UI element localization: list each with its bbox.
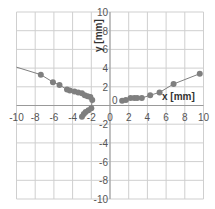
data-point xyxy=(50,79,56,85)
x-tick-label: 8 xyxy=(182,112,188,123)
y-tick-label: -10 xyxy=(94,194,109,205)
x-tick-label: 4 xyxy=(145,112,151,123)
data-point xyxy=(147,92,153,98)
y-tick-label: -6 xyxy=(99,157,108,168)
x-tick-label: -10 xyxy=(9,112,24,123)
x-tick-label: -8 xyxy=(31,112,40,123)
axes xyxy=(17,12,204,199)
x-tick-label: -4 xyxy=(68,112,77,123)
y-tick-label: 4 xyxy=(102,63,108,74)
scatter-chart: -10-8-6-4-20246810-10-8-6-4-22468100 x [… xyxy=(0,0,215,209)
x-axis-label: x [mm] xyxy=(162,91,195,102)
data-point xyxy=(171,81,177,87)
data-point xyxy=(57,82,63,88)
y-axis-label: y [mm] xyxy=(93,19,104,52)
x-tick-label: 6 xyxy=(163,112,169,123)
y-tick-label: 2 xyxy=(102,82,108,93)
y-tick-label: -8 xyxy=(99,175,108,186)
origin-y-label: 0 xyxy=(112,95,118,106)
x-tick-label: -6 xyxy=(49,112,58,123)
x-tick-label: 10 xyxy=(198,112,210,123)
x-tick-label: 0 xyxy=(107,112,113,123)
data-point xyxy=(79,114,85,120)
y-tick-label: 10 xyxy=(97,7,109,18)
data-point xyxy=(38,72,44,78)
y-tick-label: -4 xyxy=(99,138,108,149)
x-tick-label: 2 xyxy=(126,112,132,123)
data-point xyxy=(89,97,95,103)
y-tick-label: -2 xyxy=(99,119,108,130)
data-point xyxy=(197,71,203,77)
data-point xyxy=(139,95,145,101)
